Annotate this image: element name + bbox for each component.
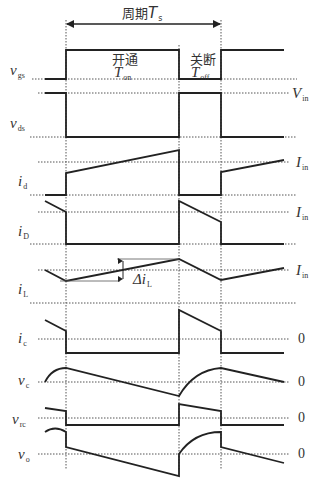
- period-symbol: Ts: [148, 4, 162, 22]
- signal-label-vgs: vgs: [10, 63, 25, 80]
- signal-label-vo: vo: [18, 447, 30, 464]
- ref-label-iL-iin: Iin: [296, 263, 308, 280]
- ref-label-vrc-zero: 0: [298, 411, 305, 425]
- vrc-waveform: [45, 404, 284, 425]
- on-label-symbol: Ton: [114, 65, 131, 82]
- reference-lines: [30, 79, 297, 454]
- ref-label-vo-zero: 0: [298, 447, 305, 461]
- signal-label-vc: vc: [18, 373, 29, 390]
- id-waveform: [45, 150, 284, 195]
- period-prefix: 周期: [122, 6, 148, 21]
- ref-label-ic-zero: 0: [298, 332, 305, 346]
- ref-label-id-iin: Iin: [296, 155, 308, 172]
- signal-label-ic: ic: [18, 331, 27, 348]
- vds-waveform: [45, 93, 284, 137]
- signal-label-iL: iL: [18, 282, 28, 299]
- period-label: 周期Ts: [122, 6, 162, 23]
- signal-label-vds: vds: [10, 116, 25, 133]
- ref-label-vc-zero: 0: [298, 375, 305, 389]
- waveform-diagram: [0, 0, 314, 489]
- ref-label-iD-iin: Iin: [296, 205, 308, 222]
- time-markers: [66, 20, 221, 470]
- waveforms: [45, 50, 284, 476]
- vo-waveform: [45, 429, 284, 477]
- signal-label-id: id: [18, 174, 27, 191]
- signal-label-iD: iD: [18, 224, 29, 241]
- delta-iL-label: ΔiL: [133, 272, 152, 289]
- off-label-symbol: Toff: [191, 65, 210, 82]
- signal-label-vrc: vrc: [12, 412, 26, 429]
- ref-label-vds-vin: Vin: [292, 86, 308, 103]
- ic-waveform: [45, 310, 284, 353]
- iD-waveform: [45, 201, 284, 244]
- vgs-waveform: [45, 50, 284, 79]
